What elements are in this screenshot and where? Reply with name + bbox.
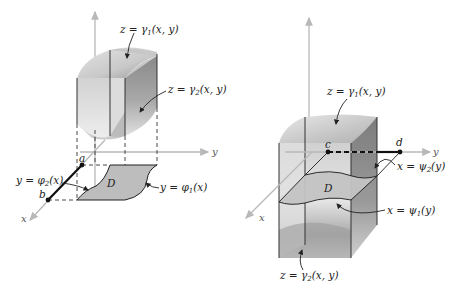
left-top-surface-label: z = γ1(x, y) (119, 23, 178, 37)
right-top-surface-label: z = γ1(x, y) (326, 85, 385, 99)
lower-boundary-psi1-label: x = ψ1(y) (387, 204, 435, 218)
point-b-label: b (39, 188, 46, 200)
left-diagram: z = γ1(x, y) z = γ2(x, y) y = φ2(x) y = … (15, 12, 226, 224)
left-bottom-surface-label: z = γ2(x, y) (167, 83, 226, 97)
right-y-axis-label: y (432, 146, 439, 157)
right-bottom-surface-label: z = γ2(x, y) (279, 269, 338, 283)
left-y-axis-label: y (211, 146, 218, 157)
left-boundary-phi2-label: y = φ2(x) (15, 174, 63, 188)
point-c-label: c (325, 138, 331, 150)
point-d-label: d (396, 136, 403, 148)
point-d (398, 150, 403, 155)
left-region-label: D (106, 177, 116, 189)
right-diagram: z = γ1(x, y) x = ψ2(y) x = ψ1(y) z = γ2(… (246, 18, 445, 283)
point-c (326, 150, 331, 155)
point-a-label: a (79, 152, 85, 164)
right-boundary-phi1-label: y = φ1(x) (159, 181, 207, 195)
right-x-axis-label: x (259, 212, 265, 223)
left-x-axis-label: x (21, 213, 27, 224)
point-b (46, 198, 51, 203)
left-region-d (77, 165, 157, 200)
upper-boundary-psi2-label: x = ψ2(y) (397, 160, 445, 174)
right-region-label: D (323, 182, 333, 194)
